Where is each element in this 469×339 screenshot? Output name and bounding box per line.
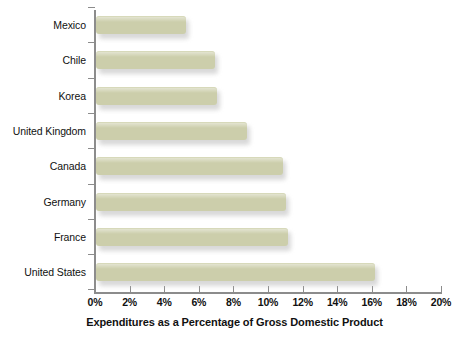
y-tick	[88, 7, 95, 8]
category-label-united-kingdom: United Kingdom	[13, 125, 86, 138]
bar-row: Mexico	[0, 10, 469, 44]
bar-row: Korea	[0, 81, 469, 115]
bar-highlight	[96, 52, 215, 57]
bar-highlight	[96, 88, 217, 93]
category-label-canada: Canada	[50, 160, 86, 173]
bar-highlight	[96, 123, 247, 128]
bar-highlight	[96, 158, 283, 163]
bar-korea	[96, 87, 217, 105]
bar-row: Canada	[0, 151, 469, 185]
bar-united-kingdom	[96, 122, 247, 140]
category-label-germany: Germany	[44, 196, 86, 209]
bar-france	[96, 228, 288, 246]
bar-mexico	[96, 16, 186, 34]
bar-canada	[96, 157, 283, 175]
plot-area: MexicoChileKoreaUnited KingdomCanadaGerm…	[0, 0, 469, 339]
category-label-mexico: Mexico	[53, 19, 86, 32]
bar-highlight	[96, 194, 286, 199]
category-label-korea: Korea	[58, 90, 86, 103]
bar-highlight	[96, 264, 375, 269]
x-axis-title: Expenditures as a Percentage of Gross Do…	[0, 316, 469, 328]
bar-chile	[96, 51, 215, 69]
category-label-united-states: United States	[24, 266, 86, 279]
bar-highlight	[96, 17, 186, 22]
bar-chart: MexicoChileKoreaUnited KingdomCanadaGerm…	[0, 0, 469, 339]
x-tick-label: 20%	[421, 296, 461, 308]
category-label-france: France	[54, 231, 86, 244]
category-label-chile: Chile	[63, 54, 86, 67]
bar-germany	[96, 193, 286, 211]
bar-row: Chile	[0, 45, 469, 79]
bar-row: Germany	[0, 187, 469, 221]
bar-row: United Kingdom	[0, 116, 469, 150]
bar-row: United States	[0, 257, 469, 291]
bar-highlight	[96, 229, 288, 234]
bar-row: France	[0, 222, 469, 256]
bar-united-states	[96, 263, 375, 281]
